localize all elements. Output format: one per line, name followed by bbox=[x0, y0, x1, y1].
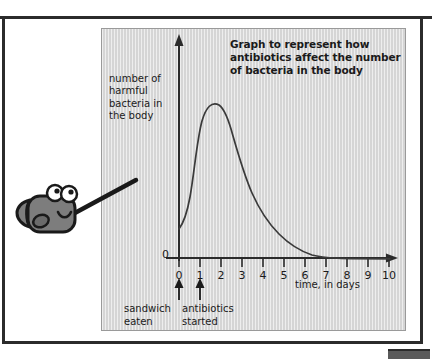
x-tick-label-10: 10 bbox=[381, 269, 397, 282]
x-tick-label-2: 2 bbox=[213, 269, 229, 282]
x-tick-label-9: 9 bbox=[360, 269, 376, 282]
plot-area bbox=[102, 29, 406, 331]
annotation-label-antibiotics-started: antibiotics started bbox=[182, 303, 234, 328]
y-axis-zero-label: 0 bbox=[162, 248, 169, 261]
x-tick-label-4: 4 bbox=[255, 269, 271, 282]
x-tick-label-0: 0 bbox=[171, 269, 187, 282]
x-axis-label: time, in days bbox=[295, 279, 360, 291]
figure-panel: Graph to represent how antibiotics affec… bbox=[101, 28, 406, 331]
x-tick-label-5: 5 bbox=[276, 269, 292, 282]
bottom-right-corner-tab bbox=[388, 349, 430, 359]
x-tick-label-1: 1 bbox=[192, 269, 208, 282]
fish-pupil-left-icon bbox=[54, 188, 59, 193]
annotation-label-sandwich-eaten: sandwich eaten bbox=[124, 303, 171, 328]
fish-pupil-right-icon bbox=[68, 189, 73, 194]
bacteria-curve bbox=[179, 104, 390, 259]
fish-character-icon bbox=[8, 176, 138, 242]
fish-eye-right-icon bbox=[61, 186, 77, 202]
y-axis bbox=[175, 34, 184, 261]
x-tick-label-3: 3 bbox=[234, 269, 250, 282]
